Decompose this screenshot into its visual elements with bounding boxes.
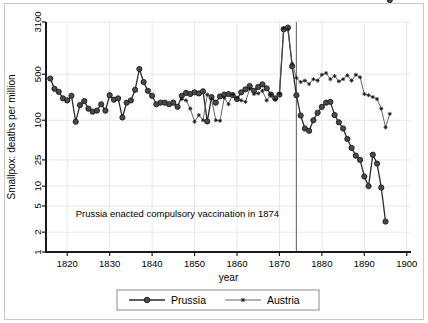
data-point-prussia <box>383 219 388 224</box>
legend-label-prussia: Prussia <box>171 294 206 306</box>
data-point-prussia <box>362 174 367 179</box>
series-layer <box>48 0 393 224</box>
legend-label-austria: Austria <box>267 294 300 306</box>
y-axis-tick-labels: 12510251005003100 <box>32 11 43 254</box>
data-point-prussia <box>294 93 299 98</box>
smallpox-mortality-chart: 12510251005003100 1820183018401850186018… <box>0 0 428 323</box>
x-tick-label: 1900 <box>396 258 417 269</box>
y-tick-label: 100 <box>32 112 43 128</box>
y-axis-title: Smallpox: deaths per million <box>6 74 17 199</box>
data-point-austria <box>358 75 362 79</box>
data-point-prussia <box>73 119 78 124</box>
data-point-prussia <box>366 184 371 189</box>
chart-annotations: Prussia enacted compulsory vaccination i… <box>76 208 279 219</box>
data-point-prussia <box>77 102 82 107</box>
data-point-prussia <box>48 76 53 81</box>
data-point-prussia <box>107 93 112 98</box>
data-point-austria <box>384 125 388 129</box>
data-point-prussia <box>56 89 61 94</box>
legend-marker-prussia <box>144 297 150 303</box>
y-tick-label: 500 <box>32 66 43 82</box>
data-point-prussia <box>141 79 146 84</box>
y-tick-label: 25 <box>32 155 43 166</box>
x-tick-label: 1870 <box>269 258 290 269</box>
data-point-austria <box>188 107 192 111</box>
data-point-prussia <box>336 120 341 125</box>
data-point-prussia <box>370 152 375 157</box>
data-point-austria <box>375 97 379 101</box>
x-tick-label: 1860 <box>226 258 247 269</box>
data-point-prussia <box>379 185 384 190</box>
data-point-prussia <box>357 157 362 162</box>
x-axis-tick-labels: 182018301840185018601870188018901900 <box>57 258 418 269</box>
y-tick-label: 1 <box>32 249 43 254</box>
x-tick-label: 1830 <box>99 258 120 269</box>
data-point-prussia <box>128 98 133 103</box>
data-point-prussia <box>175 104 180 109</box>
chart-legend[interactable]: PrussiaAustria <box>117 290 319 310</box>
data-point-austria <box>371 95 375 99</box>
series-austria <box>180 26 392 129</box>
data-point-prussia <box>332 112 337 117</box>
annotation-text: Prussia enacted compulsory vaccination i… <box>76 208 279 219</box>
data-point-prussia <box>374 161 379 166</box>
series-line-prussia <box>50 28 385 222</box>
data-point-prussia <box>315 110 320 115</box>
data-point-prussia <box>94 108 99 113</box>
data-point-prussia <box>145 88 150 93</box>
y-tick-label: 2 <box>32 230 43 235</box>
data-point-prussia <box>328 99 333 104</box>
x-tick-label: 1890 <box>354 258 375 269</box>
series-line-austria <box>182 28 390 127</box>
data-point-austria <box>367 93 371 97</box>
data-point-prussia <box>205 119 210 124</box>
data-point-prussia <box>345 136 350 141</box>
data-point-prussia <box>264 86 269 91</box>
data-point-prussia <box>150 93 155 98</box>
data-point-prussia <box>298 113 303 118</box>
data-point-prussia <box>200 89 205 94</box>
y-tick-label: 3100 <box>32 11 43 32</box>
data-point-prussia <box>311 118 316 123</box>
x-tick-label: 1880 <box>311 258 332 269</box>
data-point-austria <box>214 118 218 122</box>
data-point-austria <box>362 92 366 96</box>
data-point-austria <box>218 119 222 123</box>
data-point-prussia <box>82 99 87 104</box>
data-point-prussia <box>319 104 324 109</box>
x-tick-label: 1850 <box>184 258 205 269</box>
y-tick-label: 5 <box>32 203 43 208</box>
y-tick-label: 10 <box>32 181 43 192</box>
data-point-prussia <box>103 108 108 113</box>
chart-figure: 12510251005003100 1820183018401850186018… <box>0 0 428 323</box>
data-point-prussia <box>116 96 121 101</box>
data-point-austria <box>388 112 392 116</box>
data-point-austria <box>243 100 247 104</box>
x-tick-label: 1840 <box>142 258 163 269</box>
data-point-prussia <box>69 93 74 98</box>
data-point-prussia <box>353 153 358 158</box>
data-point-prussia <box>213 100 218 105</box>
data-point-prussia <box>387 0 392 3</box>
data-point-prussia <box>349 145 354 150</box>
data-point-prussia <box>99 102 104 107</box>
data-point-prussia <box>137 66 142 71</box>
series-prussia <box>48 0 393 224</box>
data-point-prussia <box>260 82 265 87</box>
data-point-austria <box>184 98 188 102</box>
data-point-prussia <box>340 126 345 131</box>
data-point-prussia <box>65 98 70 103</box>
data-point-prussia <box>171 100 176 105</box>
data-point-prussia <box>307 128 312 133</box>
data-point-prussia <box>120 115 125 120</box>
data-point-austria <box>379 107 383 111</box>
x-axis-title: year <box>219 272 239 283</box>
data-point-prussia <box>133 87 138 92</box>
axes <box>42 22 411 256</box>
x-tick-label: 1820 <box>57 258 78 269</box>
